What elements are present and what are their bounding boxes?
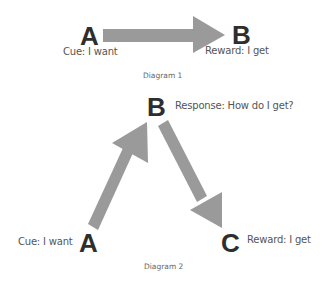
node-a-diagram2: A <box>79 230 98 256</box>
reward-label-diagram2: Reward: I get <box>247 235 311 245</box>
arrow-a-to-b-diagram2 <box>88 122 148 230</box>
reward-label-diagram1: Reward: I get <box>205 46 269 56</box>
arrow-b-to-c-diagram2 <box>158 120 222 228</box>
cue-label-diagram2: Cue: I want <box>18 237 73 247</box>
caption-diagram1: Diagram 1 <box>143 72 182 80</box>
cue-label-diagram1: Cue: I want <box>63 47 118 57</box>
node-c-diagram2: C <box>221 230 240 256</box>
response-label-diagram2: Response: How do I get? <box>175 101 293 111</box>
caption-diagram2: Diagram 2 <box>144 263 183 271</box>
node-b-diagram2: B <box>147 94 166 120</box>
